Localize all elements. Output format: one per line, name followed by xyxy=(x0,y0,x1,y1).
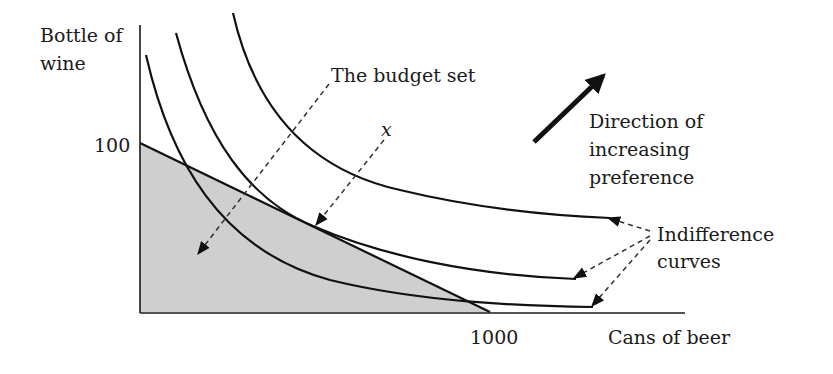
x-axis-label: Cans of beer xyxy=(608,326,731,348)
optimum-label: x xyxy=(381,118,392,140)
indifference-curve-3 xyxy=(233,13,610,218)
direction-label-line1: Direction of xyxy=(589,110,705,132)
consumer-choice-diagram: Bottle of wine 100 1000 Cans of beer The… xyxy=(0,0,833,374)
y-axis-label-line1: Bottle of xyxy=(40,24,124,46)
y-axis-label-line2: wine xyxy=(40,52,86,74)
indifference-pointer-3 xyxy=(608,218,650,231)
indifference-label-line2: curves xyxy=(657,250,721,272)
indifference-pointer-1 xyxy=(592,240,650,306)
direction-label-line2: increasing xyxy=(589,138,690,160)
indifference-label-line1: Indifference xyxy=(657,223,774,245)
indifference-pointer-2 xyxy=(574,236,650,278)
direction-label-line3: preference xyxy=(589,166,694,188)
direction-arrow-icon xyxy=(534,76,603,142)
x-tick-label: 1000 xyxy=(470,326,518,348)
budget-set-label: The budget set xyxy=(331,64,476,86)
y-tick-label: 100 xyxy=(94,134,130,156)
